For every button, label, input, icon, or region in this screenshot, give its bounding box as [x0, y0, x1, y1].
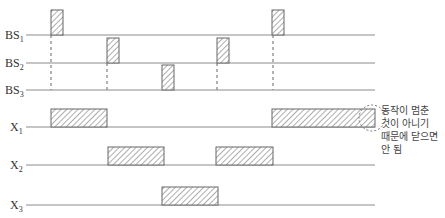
pulse-x2	[108, 147, 164, 165]
signal-pulses	[51, 10, 375, 205]
pulse-bs2	[107, 38, 119, 63]
pulse-x1	[272, 109, 375, 127]
timing-diagram	[0, 0, 445, 218]
annotation-note: 동작이 멈춘 것이 아니기 때문에 닫으면 안 됨	[381, 104, 438, 156]
pulse-x1	[51, 109, 107, 127]
label-bs2: BS2	[5, 57, 24, 74]
label-bs1: BS1	[5, 29, 24, 46]
pulse-bs1	[51, 10, 63, 35]
pulse-bs3	[162, 65, 174, 90]
label-x3: X3	[10, 199, 23, 216]
pulse-bs1	[272, 10, 284, 35]
label-bs3: BS3	[5, 84, 24, 101]
pulse-x2	[216, 147, 273, 165]
pulse-x3	[162, 187, 218, 205]
pulse-bs2	[217, 38, 229, 63]
label-x2: X2	[10, 159, 23, 176]
label-x1: X1	[10, 121, 23, 138]
